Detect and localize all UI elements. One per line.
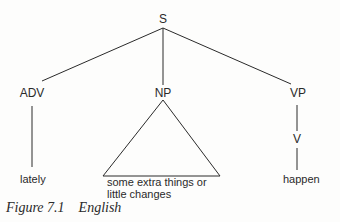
figure-caption: Figure 7.1 English [6,200,121,216]
leaf-np-line2: little changes [107,188,171,200]
edge-s-adv [42,28,163,81]
syntax-tree-figure: S ADV NP VP V lately some extra things o… [0,0,340,222]
node-adv: ADV [20,87,45,100]
node-np: NP [155,87,172,100]
leaf-lately: lately [20,173,46,185]
node-v: V [293,133,301,146]
edge-s-vp [163,28,291,84]
node-s: S [159,13,167,26]
leaf-happen: happen [283,173,320,185]
leaf-np-line1: some extra things or [107,176,207,188]
node-vp: VP [290,87,306,100]
np-triangle [103,100,220,176]
